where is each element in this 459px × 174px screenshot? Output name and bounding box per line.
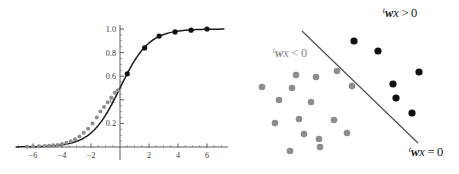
y-tick-label: 0.2: [106, 119, 116, 128]
data-point: [25, 145, 29, 149]
data-point: [73, 137, 77, 141]
data-point: [317, 144, 324, 151]
data-point: [389, 80, 396, 87]
x-tick-label: −2: [87, 151, 96, 160]
data-point: [287, 148, 294, 155]
data-point: [77, 134, 81, 138]
data-point: [349, 83, 356, 90]
data-point: [47, 144, 51, 148]
data-point: [109, 95, 113, 99]
data-point: [102, 105, 106, 109]
x-tick-label: 6: [205, 151, 209, 160]
data-point: [90, 121, 94, 125]
decision-boundary-svg: twx>0 twx<0 twx=0: [230, 0, 459, 174]
data-point: [157, 33, 162, 38]
data-point: [296, 116, 303, 123]
data-point: [142, 45, 147, 50]
data-point: [64, 141, 68, 145]
data-point: [31, 145, 35, 149]
data-point: [344, 130, 351, 137]
data-point: [392, 94, 399, 101]
data-point: [106, 100, 110, 104]
data-point: [60, 142, 64, 146]
data-point: [289, 85, 296, 92]
data-point: [408, 109, 415, 116]
data-point: [82, 131, 86, 135]
data-point: [293, 72, 300, 79]
x-tick-label: 4: [176, 151, 180, 160]
negative-region-label: twx<0: [273, 46, 307, 60]
x-tick-label: −6: [29, 151, 38, 160]
data-point: [374, 47, 381, 54]
data-point: [188, 28, 193, 33]
separating-hyperplane-line: [302, 31, 418, 143]
y-tick-label: 1.0: [106, 25, 116, 34]
positive-class-points-right: [350, 37, 422, 116]
negative-class-points-right: [259, 68, 356, 155]
data-point: [313, 74, 320, 81]
data-point: [37, 144, 41, 148]
y-axis-major-ticks: [120, 29, 124, 123]
data-point: [173, 29, 178, 34]
data-point: [69, 139, 73, 143]
decision-boundary-panel: twx>0 twx<0 twx=0: [230, 0, 459, 174]
data-point: [301, 131, 308, 138]
data-point: [276, 97, 283, 104]
data-point: [415, 68, 422, 75]
data-point: [316, 136, 323, 143]
data-point: [350, 37, 357, 44]
data-point: [56, 143, 60, 147]
data-point: [308, 99, 315, 106]
x-tick-label: 2: [147, 151, 151, 160]
y-tick-label: 0.6: [106, 72, 116, 81]
data-point: [51, 143, 55, 147]
figure-container: −6−4−2246 0.20.0.60.81.0 twx>0 twx<0 twx…: [0, 0, 459, 174]
y-tick-label: 0.8: [106, 49, 116, 58]
data-point: [331, 117, 338, 124]
sigmoid-curve-panel: −6−4−2246 0.20.0.60.81.0: [0, 0, 230, 174]
data-point: [259, 84, 266, 91]
x-axis-tick-labels: −6−4−2246: [29, 151, 209, 160]
boundary-label: twx=0: [409, 145, 443, 159]
data-point: [204, 26, 209, 31]
data-point: [95, 116, 99, 120]
data-point: [43, 144, 47, 148]
data-point: [98, 110, 102, 114]
data-point: [125, 71, 130, 76]
data-point: [334, 68, 341, 75]
data-point: [272, 120, 279, 127]
sigmoid-svg: −6−4−2246 0.20.0.60.81.0: [0, 0, 230, 174]
positive-region-label: twx>0: [383, 6, 417, 20]
x-tick-label: −4: [58, 151, 67, 160]
data-point: [86, 127, 90, 131]
data-point: [116, 88, 120, 92]
